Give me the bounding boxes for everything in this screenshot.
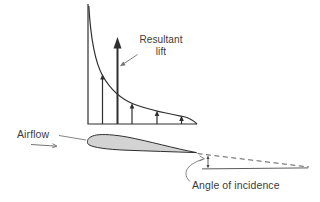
resultant-lift-leader-arrowhead-icon [120, 62, 126, 67]
angle-measure-arrowhead-bottom-icon [207, 165, 210, 169]
airflow-leader-line [59, 136, 86, 141]
lift-graph-axis [88, 4, 197, 124]
resultant-lift-label-line2: lift [156, 46, 166, 57]
horizontal-reference-line [202, 168, 308, 169]
resultant-lift-label: Resultant lift [131, 34, 191, 57]
airflow-label: Airflow [17, 129, 49, 141]
lift-distribution-curve [89, 6, 197, 124]
diagram-canvas: Resultant lift Airflow Angle of incidenc… [0, 0, 320, 202]
chord-dashed-line [198, 154, 310, 167]
resultant-lift-label-line1: Resultant [139, 34, 182, 45]
airfoil-shape [87, 135, 196, 153]
angle-of-incidence-label: Angle of incidence [192, 180, 280, 192]
airflow-arrow [31, 145, 56, 147]
diagram-svg [0, 0, 320, 202]
lift-arrow-1-head-icon [100, 74, 105, 80]
angle-leader-arrowhead-icon [200, 156, 205, 161]
resultant-lift-arrow-head-icon [114, 37, 122, 49]
angle-measure-arrowhead-top-icon [207, 155, 210, 159]
